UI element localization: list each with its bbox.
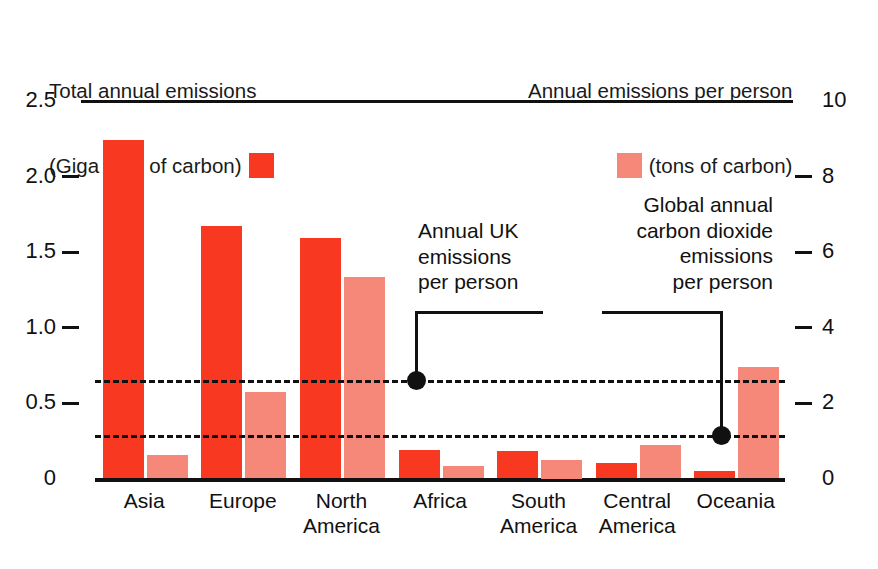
annotation-uk-text: Annual UK emissions per person bbox=[418, 218, 578, 295]
total-annual-emissions-swatch bbox=[249, 153, 274, 178]
y-axis-tick-label: 1.0 bbox=[0, 314, 56, 340]
y2-axis-tick bbox=[795, 175, 812, 178]
annotation-global-line3: emissions bbox=[680, 244, 773, 267]
annotation-global-line1: Global annual bbox=[643, 193, 773, 216]
top-axis-line bbox=[81, 100, 793, 103]
reference-line bbox=[95, 435, 785, 438]
bar-percapita-central-america bbox=[640, 445, 681, 478]
reference-line bbox=[95, 380, 785, 383]
annotation-global-leader-horizontal bbox=[602, 311, 723, 314]
annotation-uk-line1: Annual UK bbox=[418, 219, 518, 242]
bar-percapita-south-america bbox=[541, 460, 582, 479]
bar-total-asia bbox=[103, 140, 144, 478]
annotation-global-text: Global annual carbon dioxide emissions p… bbox=[558, 192, 773, 294]
y2-axis-tick-label: 4 bbox=[822, 314, 834, 340]
annotation-global-line4: per person bbox=[673, 270, 773, 293]
legend-right-label-line2: (tons of carbon) bbox=[649, 153, 793, 178]
y2-axis-tick-label: 0 bbox=[822, 465, 834, 491]
annotation-uk-line3: per person bbox=[418, 270, 518, 293]
bar-percapita-north-america bbox=[344, 277, 385, 479]
baseline-axis bbox=[95, 478, 785, 482]
y-axis-tick-label: 2.0 bbox=[0, 163, 56, 189]
annotation-uk-leader-horizontal bbox=[415, 311, 543, 314]
emissions-per-person-swatch bbox=[617, 153, 642, 178]
y2-axis-tick bbox=[795, 251, 812, 254]
bar-total-europe bbox=[201, 226, 242, 478]
y2-axis-tick-label: 8 bbox=[822, 163, 834, 189]
annotation-uk-line2: emissions bbox=[418, 245, 511, 268]
annotation-uk-leader-vertical bbox=[415, 311, 418, 380]
x-axis-category-label: Oceania bbox=[666, 488, 806, 513]
annotation-global-line2: carbon dioxide bbox=[636, 219, 773, 242]
y2-axis-tick-label: 2 bbox=[822, 389, 834, 415]
y-axis-tick-label: 2.5 bbox=[0, 87, 56, 113]
legend-right-line2: (tons of carbon) bbox=[528, 153, 792, 178]
bar-total-north-america bbox=[300, 238, 341, 478]
bar-total-south-america bbox=[497, 451, 538, 478]
y2-axis-tick-label: 6 bbox=[822, 238, 834, 264]
y-axis-tick bbox=[62, 251, 79, 254]
y-axis-tick-label: 0 bbox=[0, 465, 56, 491]
bar-total-africa bbox=[399, 450, 440, 479]
y2-axis-tick bbox=[795, 326, 812, 329]
annotation-uk-marker-dot bbox=[407, 371, 426, 390]
annotation-global-marker-dot bbox=[712, 426, 731, 445]
bar-percapita-africa bbox=[443, 466, 484, 479]
y-axis-tick-label: 1.5 bbox=[0, 238, 56, 264]
bar-total-oceania bbox=[694, 471, 735, 479]
annotation-global-leader-vertical bbox=[720, 311, 723, 435]
y2-axis-tick-label: 10 bbox=[822, 87, 846, 113]
bar-total-central-america bbox=[596, 463, 637, 478]
y-axis-tick-label: 0.5 bbox=[0, 389, 56, 415]
bar-percapita-asia bbox=[147, 455, 188, 478]
y-axis-tick bbox=[62, 175, 79, 178]
chart-figure: Total annual emissions (Giga tons of car… bbox=[0, 0, 878, 569]
y-axis-tick bbox=[62, 402, 79, 405]
y-axis-tick bbox=[62, 326, 79, 329]
bar-percapita-oceania bbox=[738, 367, 779, 478]
legend-left-line2: (Giga tons of carbon) bbox=[49, 153, 274, 178]
legend-total-emissions: Total annual emissions (Giga tons of car… bbox=[49, 28, 274, 228]
y2-axis-tick bbox=[795, 402, 812, 405]
